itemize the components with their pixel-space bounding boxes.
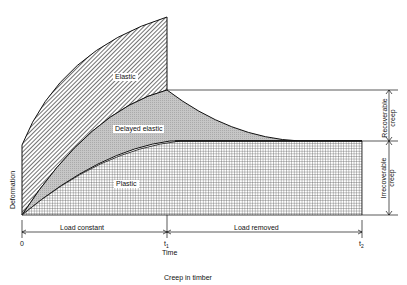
delayed-elastic-label: Delayed elastic xyxy=(113,125,164,133)
load-constant-label: Load constant xyxy=(60,224,104,232)
plastic-label: Plastic xyxy=(114,180,139,188)
recoverable-text: Recoverable xyxy=(381,95,389,141)
x-axis-label: Time xyxy=(162,249,177,257)
irrecoverable-text: Irrecoverable xyxy=(380,150,388,206)
irrecoverable-creep-text: creep xyxy=(388,150,396,206)
creep-diagram xyxy=(0,0,407,285)
elastic-label: Elastic xyxy=(113,73,138,81)
recoverable-creep-text: creep xyxy=(389,95,397,141)
tick-t2-sub: 2 xyxy=(361,243,364,249)
figure-caption: Creep in timber xyxy=(164,274,212,282)
load-removed-label: Load removed xyxy=(234,224,279,232)
y-axis-label: Deformation xyxy=(9,165,17,215)
recoverable-label: Recoverablecreep xyxy=(381,95,397,141)
tick-origin: 0 xyxy=(20,240,24,248)
irrecoverable-label: Irrecoverablecreep xyxy=(380,150,396,206)
tick-t2: t2 xyxy=(359,240,364,250)
